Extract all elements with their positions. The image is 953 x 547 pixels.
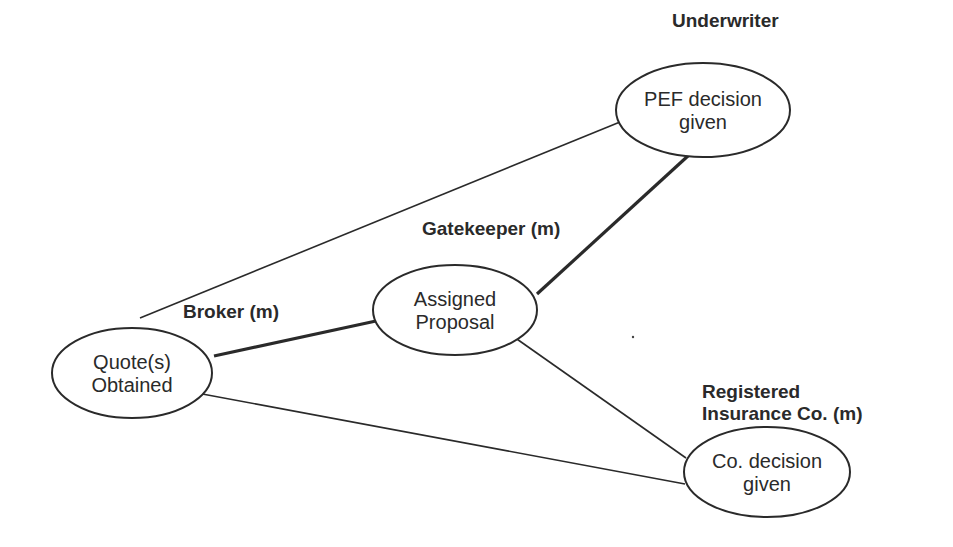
edge-assigned-to-co bbox=[514, 337, 686, 458]
node-label: Quote(s) bbox=[93, 351, 171, 373]
process-network-diagram: Quote(s)ObtainedAssignedProposalPEF deci… bbox=[0, 0, 953, 547]
node-label: given bbox=[743, 473, 791, 495]
node-assigned: AssignedProposal bbox=[373, 265, 537, 355]
nodes-layer: Quote(s)ObtainedAssignedProposalPEF deci… bbox=[52, 63, 850, 517]
node-pef: PEF decisiongiven bbox=[616, 63, 790, 157]
node-label: Co. decision bbox=[712, 450, 822, 472]
stray-dot bbox=[632, 336, 634, 338]
role-label-registered: Registered bbox=[702, 381, 800, 402]
node-label: Obtained bbox=[91, 374, 172, 396]
role-label-underwriter: Underwriter bbox=[672, 10, 779, 31]
node-label: PEF decision bbox=[644, 88, 762, 110]
node-label: given bbox=[679, 111, 727, 133]
roles-layer: UnderwriterGatekeeper (m)Broker (m)Regis… bbox=[183, 10, 862, 424]
edge-quote-to-assigned bbox=[214, 321, 376, 356]
node-label: Proposal bbox=[416, 311, 495, 333]
node-quote: Quote(s)Obtained bbox=[52, 328, 212, 418]
node-label: Assigned bbox=[414, 288, 496, 310]
role-label-broker: Broker (m) bbox=[183, 301, 279, 322]
role-label-registered: Insurance Co. (m) bbox=[702, 403, 862, 424]
node-co: Co. decisiongiven bbox=[684, 427, 850, 517]
role-label-gatekeeper: Gatekeeper (m) bbox=[422, 218, 560, 239]
